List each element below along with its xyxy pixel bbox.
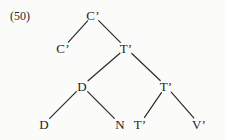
- tree-node-d-mid: D: [77, 80, 87, 93]
- edge-root-to-c-bar-left: [68, 21, 87, 42]
- tree-node-d-leaf: D: [39, 118, 49, 131]
- tree-node-t-bar-leaf: T’: [134, 118, 147, 131]
- edge-root-to-t-bar-1: [99, 21, 121, 43]
- tree-node-c-bar-left: C’: [56, 42, 69, 55]
- tree-node-t-bar-1: T’: [120, 42, 133, 55]
- tree-node-c-bar-root: C’: [86, 9, 99, 22]
- edge-t2-to-t-bar-leaf: [145, 93, 162, 118]
- edge-t2-to-v-bar-leaf: [171, 92, 194, 118]
- edge-d-mid-to-n-leaf: [88, 92, 115, 119]
- edge-t1-to-t-bar-2: [132, 54, 160, 81]
- edge-group: [50, 21, 194, 119]
- tree-node-t-bar-2: T’: [160, 80, 173, 93]
- edge-d-mid-to-d-leaf: [50, 92, 77, 119]
- tree-node-n-leaf: N: [115, 118, 125, 131]
- edge-t1-to-d-mid: [88, 53, 120, 81]
- figure-canvas: (50) C’C’T’DT’DNT’V’: [0, 0, 226, 140]
- tree-node-v-bar-leaf: V’: [192, 118, 206, 131]
